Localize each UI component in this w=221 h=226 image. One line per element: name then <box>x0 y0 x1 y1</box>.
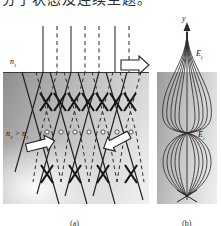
index-upper-label: n1 <box>10 58 16 69</box>
refracted-rays-dashed <box>33 72 144 182</box>
incident-beams-solid <box>43 26 115 72</box>
axis-arrowhead <box>184 22 191 31</box>
figure-body: n1 n2 > n1 <box>0 14 221 226</box>
panel-a-sublabel: (a) <box>70 219 79 226</box>
panel-a-rays <box>3 14 149 204</box>
propagation-arrow <box>121 56 149 74</box>
figure-root: 分子状态及连续主题。 <box>0 0 221 226</box>
panel-b: D <box>157 14 217 204</box>
incident-beams-dashed <box>57 26 129 72</box>
focal-node-row-mid <box>45 130 133 134</box>
input-field-label: Ei <box>198 131 204 142</box>
y-axis-label: y <box>182 15 186 23</box>
output-field-label: Ef <box>196 50 202 61</box>
panel-b-sublabel: (b) <box>182 219 191 226</box>
panel-a: n1 n2 > n1 <box>3 14 149 204</box>
caption-text: 分子状态及连续主题。 <box>2 0 152 8</box>
panel-b-filaments <box>157 14 217 204</box>
page-caption-clipped: 分子状态及连续主题。 <box>0 0 221 13</box>
index-comparison-label: n2 > n1 <box>6 130 28 141</box>
